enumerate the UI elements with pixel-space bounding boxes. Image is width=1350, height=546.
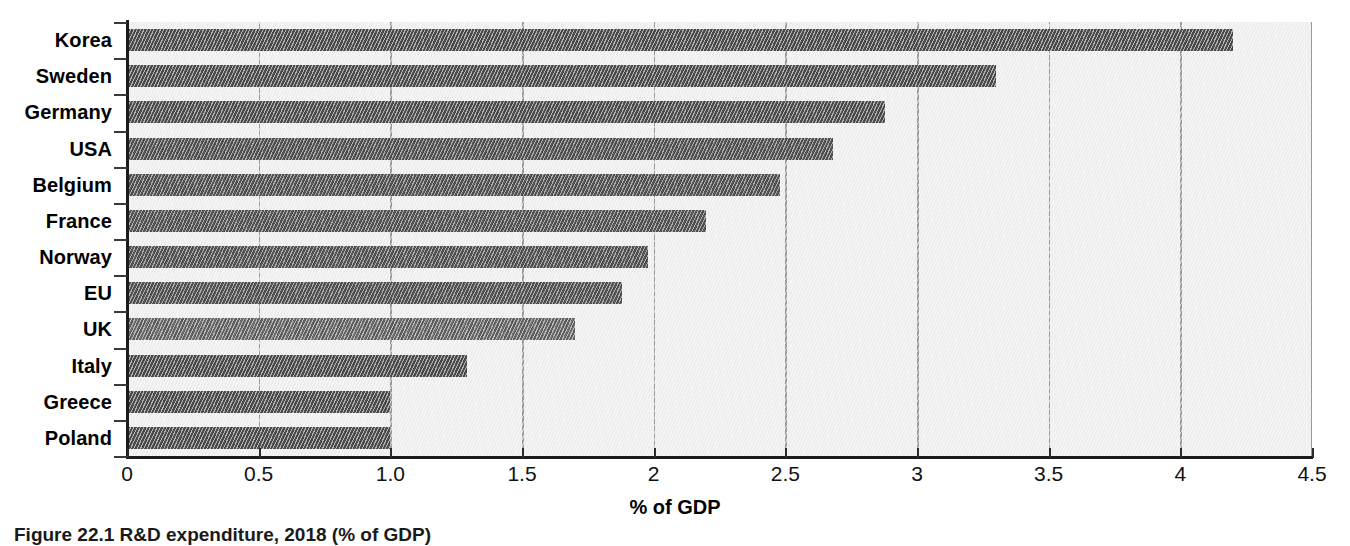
x-axis-tick-label: 3 bbox=[911, 462, 923, 486]
bar-germany bbox=[127, 101, 885, 123]
bar-row bbox=[127, 391, 390, 413]
category-label-usa: USA bbox=[69, 138, 112, 160]
bar-uk bbox=[127, 318, 575, 340]
category-label-poland: Poland bbox=[45, 427, 112, 449]
bar-row bbox=[127, 282, 622, 304]
bar-greece bbox=[127, 391, 390, 413]
x-axis-tick bbox=[1049, 448, 1051, 458]
bar-row bbox=[127, 246, 648, 268]
gridline-3-5 bbox=[1049, 22, 1051, 456]
category-label-germany: Germany bbox=[25, 101, 112, 123]
bar-korea bbox=[127, 29, 1233, 51]
bar-row bbox=[127, 427, 390, 449]
x-axis-tick bbox=[127, 448, 129, 458]
bar-italy bbox=[127, 355, 467, 377]
x-axis-title: % of GDP bbox=[0, 496, 1350, 519]
x-axis-tick bbox=[785, 448, 787, 458]
x-axis-tick-label: 4 bbox=[1174, 462, 1186, 486]
bar-usa bbox=[127, 138, 833, 160]
category-label-eu: EU bbox=[84, 282, 112, 304]
y-axis-tick bbox=[114, 311, 127, 313]
bar-row bbox=[127, 65, 996, 87]
bar-row bbox=[127, 355, 467, 377]
category-label-italy: Italy bbox=[71, 355, 112, 377]
bar-row bbox=[127, 29, 1233, 51]
category-label-korea: Korea bbox=[55, 29, 112, 51]
y-axis-tick bbox=[114, 94, 127, 96]
y-axis-tick bbox=[114, 22, 127, 24]
x-axis-tick bbox=[654, 448, 656, 458]
x-axis-tick-label: 2 bbox=[648, 462, 660, 486]
category-label-norway: Norway bbox=[39, 246, 112, 268]
y-axis-tick bbox=[114, 131, 127, 133]
x-axis-tick bbox=[917, 448, 919, 458]
category-label-france: France bbox=[46, 210, 112, 232]
category-label-sweden: Sweden bbox=[36, 65, 112, 87]
bar-sweden bbox=[127, 65, 996, 87]
x-axis-tick bbox=[390, 448, 392, 458]
bar-row bbox=[127, 101, 885, 123]
y-axis-tick bbox=[114, 275, 127, 277]
x-axis-tick-label: 2.5 bbox=[771, 462, 800, 486]
category-label-greece: Greece bbox=[44, 391, 112, 413]
y-axis-tick bbox=[114, 456, 127, 458]
plot-area bbox=[127, 22, 1312, 456]
gridline-4 bbox=[1180, 22, 1182, 456]
y-axis-tick bbox=[114, 58, 127, 60]
x-axis-tick-label: 0 bbox=[121, 462, 133, 486]
y-axis-tick bbox=[114, 167, 127, 169]
x-axis-tick bbox=[259, 448, 261, 458]
x-axis-tick-label: 1.5 bbox=[507, 462, 536, 486]
bar-row bbox=[127, 210, 706, 232]
bar-row bbox=[127, 174, 780, 196]
x-axis-tick-label: 4.5 bbox=[1297, 462, 1326, 486]
bar-row bbox=[127, 318, 575, 340]
figure-caption: Figure 22.1 R&D expenditure, 2018 (% of … bbox=[14, 524, 431, 546]
bar-norway bbox=[127, 246, 648, 268]
y-axis-tick bbox=[114, 420, 127, 422]
bar-poland bbox=[127, 427, 390, 449]
x-axis-line bbox=[126, 456, 1313, 459]
bar-row bbox=[127, 138, 833, 160]
y-axis-tick bbox=[114, 239, 127, 241]
category-label-uk: UK bbox=[83, 318, 112, 340]
bar-france bbox=[127, 210, 706, 232]
y-axis-tick bbox=[114, 384, 127, 386]
bar-belgium bbox=[127, 174, 780, 196]
x-axis-tick bbox=[1312, 448, 1314, 458]
x-axis-tick-label: 3.5 bbox=[1034, 462, 1063, 486]
x-axis-tick bbox=[1180, 448, 1182, 458]
x-axis-tick-label: 0.5 bbox=[244, 462, 273, 486]
x-axis-tick-label: 1.0 bbox=[376, 462, 405, 486]
bar-eu bbox=[127, 282, 622, 304]
category-label-belgium: Belgium bbox=[32, 174, 112, 196]
y-axis-tick bbox=[114, 348, 127, 350]
x-axis-tick bbox=[522, 448, 524, 458]
y-axis-tick bbox=[114, 203, 127, 205]
